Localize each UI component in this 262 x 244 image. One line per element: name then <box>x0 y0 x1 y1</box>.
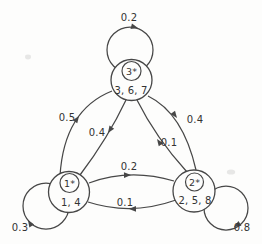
arrowhead-self-loop-3 <box>131 23 139 30</box>
self-loop-1-probability: 0.3 <box>12 222 29 233</box>
paper-smudge <box>25 55 31 60</box>
paper-smudge <box>227 169 235 174</box>
state-3-label: 3* <box>126 66 137 77</box>
arrowhead-3-to-1 <box>106 126 115 135</box>
transition-1-to-2-probability: 0.2 <box>121 161 138 172</box>
state-2-label: 2* <box>189 177 200 188</box>
transition-2-to-3 <box>137 100 187 172</box>
labels-layer: 3* 3, 6, 7 0.2 1* 1, 4 0.3 2* 2, 5, 8 0.… <box>12 12 251 233</box>
state-3-members: 3, 6, 7 <box>114 85 147 96</box>
state-diagram-canvas: 3* 3, 6, 7 0.2 1* 1, 4 0.3 2* 2, 5, 8 0.… <box>0 0 262 244</box>
transition-2-to-3-probability: 0.1 <box>161 137 178 148</box>
state-2-members: 2, 5, 8 <box>178 195 211 206</box>
state-1-label: 1* <box>64 178 75 189</box>
transition-1-to-2 <box>89 175 174 183</box>
state-1-members: 1, 4 <box>61 197 81 208</box>
arrowhead-1-to-2 <box>124 172 131 178</box>
transition-1-to-3-probability: 0.5 <box>59 112 76 123</box>
transition-2-to-1-probability: 0.1 <box>117 197 134 208</box>
transition-3-to-2 <box>148 96 196 170</box>
states-layer <box>49 60 216 213</box>
transition-3-to-2-probability: 0.4 <box>187 114 204 125</box>
transition-3-to-1-probability: 0.4 <box>89 127 106 138</box>
self-loop-3-probability: 0.2 <box>121 12 138 23</box>
state-diagram-figure: 3* 3, 6, 7 0.2 1* 1, 4 0.3 2* 2, 5, 8 0.… <box>0 0 262 244</box>
self-loop-2-probability: 0.8 <box>234 222 251 233</box>
